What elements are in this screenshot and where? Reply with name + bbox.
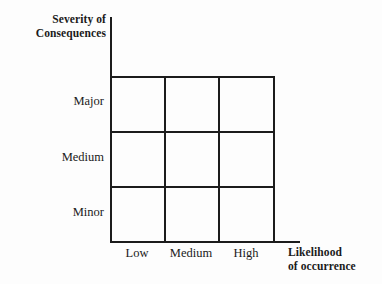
y-axis-tick-major: Major [0,94,104,109]
matrix-cell-major-low[interactable] [112,78,164,131]
matrix-grid [110,76,275,243]
matrix-cell-medium-high[interactable] [220,133,273,186]
y-axis-title: Severity of Consequences [0,12,106,40]
y-axis-tick-medium: Medium [0,150,104,165]
gridline-vertical-left [110,76,112,243]
gridline-horizontal-major-medium [110,131,275,133]
x-axis-title-line-1: Likelihood [288,245,382,259]
x-axis-tick-high: High [218,246,274,261]
gridline-horizontal-medium-minor [110,186,275,188]
matrix-cell-medium-low[interactable] [112,133,164,186]
x-axis-title: Likelihood of occurrence [288,245,382,273]
gridline-vertical-medium-high [218,76,220,243]
y-axis-title-line-2: Consequences [0,26,106,40]
x-axis-tick-medium: Medium [164,246,218,261]
y-axis-tick-minor: Minor [0,205,104,220]
gridline-horizontal-bottom [110,241,275,243]
x-axis-tick-low: Low [110,246,164,261]
matrix-cell-major-high[interactable] [220,78,273,131]
gridline-horizontal-top [110,76,275,78]
gridline-vertical-low-medium [164,76,166,243]
x-axis-title-line-2: of occurrence [288,259,382,273]
matrix-cell-minor-low[interactable] [112,188,164,241]
matrix-cell-minor-medium[interactable] [166,188,218,241]
y-axis-title-line-1: Severity of [0,12,106,26]
risk-matrix-diagram: Severity of Consequences Major Medium Mi… [0,0,382,284]
matrix-cell-minor-high[interactable] [220,188,273,241]
matrix-cell-major-medium[interactable] [166,78,218,131]
gridline-vertical-right [273,76,275,243]
matrix-cell-medium-medium[interactable] [166,133,218,186]
